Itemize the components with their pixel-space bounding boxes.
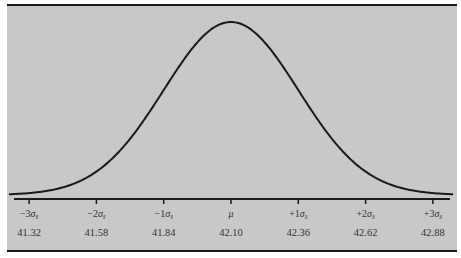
sigma-tick-label: +1σx̄ [289,208,308,220]
value-tick-label: 41.58 [85,227,109,238]
sigma-tick-label: μ [227,208,233,219]
value-tick-label: 42.62 [354,227,378,238]
value-tick-label: 42.10 [219,227,243,238]
value-tick-label: 42.36 [286,227,310,238]
sigma-tick-label: −2σx̄ [87,208,106,220]
value-tick-label: 41.32 [17,227,41,238]
sigma-tick-label: −3σx̄ [20,208,39,220]
sigma-tick-label: +2σx̄ [356,208,375,220]
sigma-tick-label: −1σx̄ [155,208,174,220]
sigma-tick-label: +3σx̄ [424,208,443,220]
normal-curve [9,22,453,194]
normal-distribution-chart: −3σx̄−2σx̄−1σx̄μ+1σx̄+2σx̄+3σx̄ 41.3241.… [0,0,461,258]
value-tick-label: 42.88 [421,227,445,238]
value-tick-label: 41.84 [152,227,176,238]
